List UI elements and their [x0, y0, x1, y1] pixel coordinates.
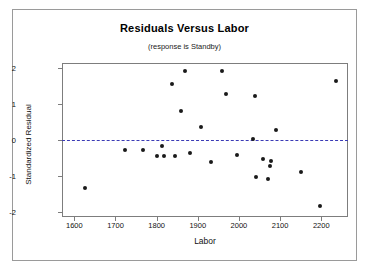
data-point — [269, 159, 273, 163]
y-tick-mark — [58, 212, 62, 213]
data-point — [141, 148, 145, 152]
data-point — [235, 153, 239, 157]
data-point — [199, 125, 203, 129]
x-axis-label: Labor — [62, 236, 348, 246]
data-point — [253, 94, 257, 98]
scatter-plot-area — [62, 63, 348, 217]
data-point — [179, 109, 183, 113]
x-tick-mark — [198, 217, 199, 221]
x-tick-mark — [115, 217, 116, 221]
y-tick-label: -1 — [0, 171, 16, 180]
y-tick-label: 2 — [0, 64, 16, 73]
y-axis-label: Standardized Residual — [24, 85, 33, 205]
data-point — [173, 154, 177, 158]
y-tick-label: 0 — [0, 136, 16, 145]
data-point — [266, 177, 270, 181]
x-tick-label: 1800 — [137, 221, 177, 230]
chart-figure: Residuals Versus Labor (response is Stan… — [0, 0, 369, 270]
data-point — [318, 204, 322, 208]
data-point — [299, 170, 303, 174]
data-point — [209, 160, 213, 164]
data-point — [254, 175, 258, 179]
x-tick-mark — [239, 217, 240, 221]
data-point — [224, 92, 228, 96]
x-tick-mark — [280, 217, 281, 221]
data-point — [268, 164, 272, 168]
data-point — [162, 154, 166, 158]
y-tick-mark — [58, 140, 62, 141]
data-point — [274, 128, 278, 132]
data-point — [170, 82, 174, 86]
y-tick-label: 1 — [0, 100, 16, 109]
chart-title: Residuals Versus Labor — [0, 22, 369, 34]
x-tick-label: 2100 — [260, 221, 300, 230]
y-tick-mark — [58, 104, 62, 105]
data-point — [188, 151, 192, 155]
x-tick-label: 1700 — [95, 221, 135, 230]
data-point — [261, 157, 265, 161]
data-point — [123, 148, 127, 152]
y-tick-label: -2 — [0, 207, 16, 216]
y-tick-mark — [58, 176, 62, 177]
x-tick-mark — [157, 217, 158, 221]
x-tick-label: 1900 — [178, 221, 218, 230]
x-tick-label: 1600 — [54, 221, 94, 230]
chart-subtitle: (response is Standby) — [0, 42, 369, 51]
x-tick-mark — [321, 217, 322, 221]
y-tick-mark — [58, 68, 62, 69]
x-tick-mark — [74, 217, 75, 221]
x-tick-label: 2000 — [219, 221, 259, 230]
data-point — [83, 186, 87, 190]
data-point — [183, 69, 187, 73]
data-point — [334, 79, 338, 83]
data-point — [155, 154, 159, 158]
data-point — [220, 69, 224, 73]
zero-reference-line — [62, 140, 348, 141]
data-point — [160, 144, 164, 148]
x-tick-label: 2200 — [301, 221, 341, 230]
